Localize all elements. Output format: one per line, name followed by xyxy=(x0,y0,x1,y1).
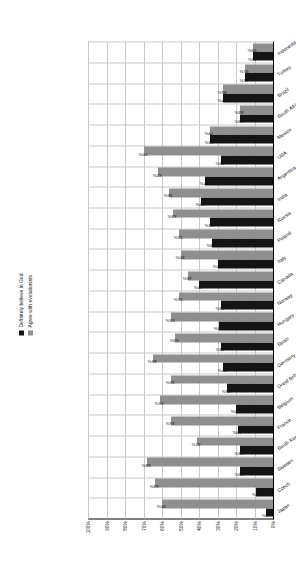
chart-area: Definitely believe in God Agree with evo… xyxy=(0,0,296,571)
rotated-chart-canvas: Definitely believe in God Agree with evo… xyxy=(0,0,296,571)
bar-definitely-believe-in-god: 11% xyxy=(253,51,273,60)
category-label: Norway xyxy=(276,291,293,306)
category-label: Indonesia xyxy=(276,39,296,56)
bar-value-label: 27% xyxy=(218,367,227,372)
bar-value-label: 60% xyxy=(157,503,166,508)
bar-agree-with-evolutionists: 61% xyxy=(160,395,273,404)
bar-group: 11%93% xyxy=(88,41,273,62)
category-label: South Korea xyxy=(276,430,296,451)
bar-value-label: 28% xyxy=(216,305,225,310)
bar-value-label: 53% xyxy=(170,337,179,342)
bar-pair: 30%50% xyxy=(88,248,273,269)
legend-label-1: Agree with evolutionists xyxy=(27,274,33,327)
y-axis-tick-label: 60% xyxy=(160,518,165,530)
bar-agree-with-evolutionists: 53% xyxy=(175,333,273,342)
bar-value-label: 30% xyxy=(212,263,221,268)
bar-value-label: 46% xyxy=(183,275,192,280)
category-label: Canada xyxy=(276,270,294,285)
bar-group: 40%46% xyxy=(88,269,273,290)
bar-pair: 28%70% xyxy=(88,145,273,166)
legend-item-agree-with-evolutionists: Agree with evolutionists xyxy=(27,273,33,335)
bar-value-label: 34% xyxy=(205,139,214,144)
bar-agree-with-evolutionists: 55% xyxy=(171,375,273,384)
bar-definitely-believe-in-god: 28% xyxy=(221,342,273,351)
bar-agree-with-evolutionists: 55% xyxy=(171,312,273,321)
bar-agree-with-evolutionists: 54% xyxy=(173,209,273,218)
legend-label-0: Definitely believe in God xyxy=(18,273,24,327)
bar-group: 15%91% xyxy=(88,62,273,83)
bar-value-label: 84% xyxy=(234,109,243,114)
bar-group: 27%65% xyxy=(88,352,273,373)
bar-pair: 9%64% xyxy=(88,477,273,498)
bar-value-label: 61% xyxy=(155,400,164,405)
bar-group: 4%60% xyxy=(88,497,273,518)
light-square-icon xyxy=(28,330,33,335)
bar-value-label: 41% xyxy=(192,441,201,446)
bar-group: 39%56% xyxy=(88,186,273,207)
bar-agree-with-evolutionists: 62% xyxy=(158,167,273,176)
category-label: Czech xyxy=(276,480,291,493)
bar-group: 18%84% xyxy=(88,103,273,124)
bar-columns: 4%60%9%64%18%68%18%41%19%55%20%61%25%55%… xyxy=(88,41,273,518)
bar-value-label: 18% xyxy=(234,471,243,476)
bar-pair: 20%61% xyxy=(88,394,273,415)
category-label: France xyxy=(276,417,292,431)
y-axis-tick-label: 50% xyxy=(178,518,183,530)
bar-agree-with-evolutionists: 50% xyxy=(181,250,274,259)
bar-value-label: 11% xyxy=(247,56,255,61)
category-label: Belgium xyxy=(276,394,294,409)
bar-value-label: 64% xyxy=(149,483,158,488)
bar-definitely-believe-in-god: 18% xyxy=(240,114,273,123)
bar-group: 34%54% xyxy=(88,207,273,228)
bar-pair: 27%65% xyxy=(88,352,273,373)
bar-definitely-believe-in-god: 27% xyxy=(223,93,273,102)
bar-value-label: 55% xyxy=(166,420,175,425)
bar-group: 19%55% xyxy=(88,414,273,435)
bar-value-label: 28% xyxy=(216,346,225,351)
bar-definitely-believe-in-god: 29% xyxy=(219,321,273,330)
bar-value-label: 40% xyxy=(194,284,203,289)
bar-pair: 27%85% xyxy=(88,83,273,104)
bar-group: 18%41% xyxy=(88,435,273,456)
bar-definitely-believe-in-god: 30% xyxy=(218,259,274,268)
bar-value-label: 55% xyxy=(166,379,175,384)
bar-group: 9%64% xyxy=(88,477,273,498)
bar-definitely-believe-in-god: 37% xyxy=(205,176,273,185)
bar-pair: 19%55% xyxy=(88,414,273,435)
bar-group: 33%51% xyxy=(88,228,273,249)
bar-pair: 18%41% xyxy=(88,435,273,456)
bar-value-label: 51% xyxy=(173,296,182,301)
bar-group: 30%50% xyxy=(88,248,273,269)
bar-agree-with-evolutionists: 91% xyxy=(245,64,273,73)
bar-value-label: 39% xyxy=(195,201,204,206)
y-axis-tick-label: 90% xyxy=(104,518,109,530)
y-axis-tick-label: 100% xyxy=(86,518,91,533)
category-label: Sweden xyxy=(276,457,294,472)
bar-pair: 28%51% xyxy=(88,290,273,311)
bar-agree-with-evolutionists: 46% xyxy=(188,271,273,280)
y-axis-tick-label: 30% xyxy=(215,518,220,530)
bar-agree-with-evolutionists: 51% xyxy=(179,292,273,301)
chart-legend: Definitely believe in God Agree with evo… xyxy=(18,273,33,335)
category-label: USA xyxy=(276,149,288,160)
category-label: Italy xyxy=(276,254,287,264)
bar-pair: 15%91% xyxy=(88,62,273,83)
chart-screenshot: Definitely believe in God Agree with evo… xyxy=(0,0,296,571)
bar-value-label: 68% xyxy=(142,462,151,467)
bar-group: 20%61% xyxy=(88,394,273,415)
bar-value-label: 85% xyxy=(218,89,227,94)
bar-definitely-believe-in-god: 19% xyxy=(238,425,273,434)
bar-value-label: 65% xyxy=(147,358,156,363)
bar-definitely-believe-in-god: 20% xyxy=(236,404,273,413)
bar-definitely-believe-in-god: 28% xyxy=(221,300,273,309)
bar-definitely-believe-in-god: 9% xyxy=(256,487,273,496)
y-axis-tick-label: 0% xyxy=(271,518,276,528)
dark-square-icon xyxy=(19,330,24,335)
bar-value-label: 4% xyxy=(261,512,267,517)
category-label: Great Britain xyxy=(276,368,296,389)
bar-definitely-believe-in-god: 33% xyxy=(212,238,273,247)
category-label: Brazil xyxy=(276,86,290,98)
category-label: Hungary xyxy=(276,311,295,327)
bar-value-label: 70% xyxy=(138,151,147,156)
bar-agree-with-evolutionists: 64% xyxy=(155,478,273,487)
